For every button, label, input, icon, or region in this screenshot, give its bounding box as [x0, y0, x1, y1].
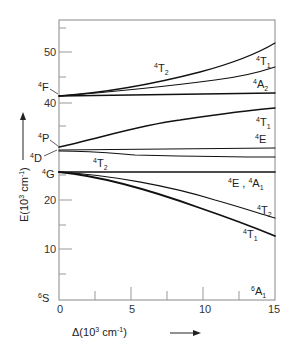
term-4P: 4P	[38, 132, 49, 144]
label-4T1-top: 4T1	[256, 55, 271, 69]
label-4T2-low: 4T2	[257, 204, 272, 218]
label-4T1-low: 4T1	[243, 228, 258, 242]
y-axis-label: E(103 cm-1)	[18, 167, 30, 222]
label-6A1: 6A1	[251, 285, 266, 299]
y-tick-50: 50	[44, 46, 56, 58]
curve-4T1-mid	[59, 108, 275, 147]
curve-4E-mid	[59, 148, 275, 150]
x-tick-5: 5	[129, 303, 135, 315]
curve-4T2-mid	[59, 151, 275, 157]
label-4T2-mid: 4T2	[93, 157, 108, 171]
x-axis-label: Δ(103 cm-1)	[72, 326, 127, 338]
svg-text:E(103 cm-1): E(103 cm-1)	[18, 167, 30, 222]
label-4E-4A1: 4E , 4A1	[228, 177, 264, 191]
plot-frame	[59, 20, 275, 300]
y-tick-20: 20	[44, 194, 56, 206]
label-4A2: 4A2	[253, 78, 268, 92]
term-4D: 4D	[30, 152, 42, 164]
y-axis-arrowhead-icon	[20, 112, 26, 120]
term-6S: 6S	[38, 292, 49, 304]
x-axis-arrowhead-icon	[193, 330, 201, 336]
label-4E-mid: 4E	[255, 133, 266, 145]
term-4F: 4F	[38, 81, 49, 93]
x-tick-10: 10	[199, 303, 211, 315]
label-4T2-top: 4T2	[154, 62, 169, 76]
x-ticks	[95, 287, 239, 300]
energy-level-diagram: 50 40 20 10 0 5 10 15 4F 4P 4D 4G 6S 4T2…	[0, 0, 294, 346]
y-tick-10: 10	[44, 243, 56, 255]
term-4G: 4G	[42, 168, 54, 180]
x-tick-0: 0	[57, 303, 63, 315]
y-tick-40: 40	[44, 97, 56, 109]
label-4T1-mid: 4T1	[256, 116, 271, 130]
x-tick-15: 15	[268, 303, 280, 315]
